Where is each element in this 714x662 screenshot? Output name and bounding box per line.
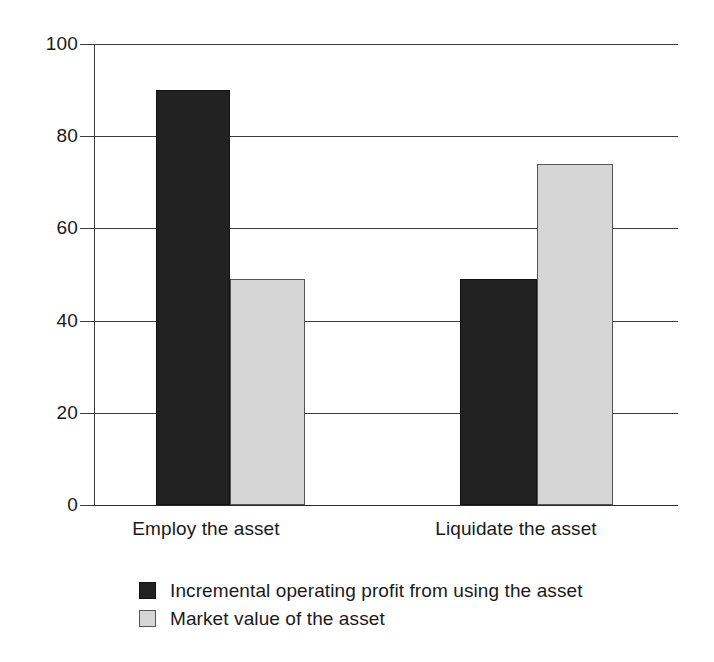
y-tick-label-80: 80 <box>26 126 78 145</box>
legend-item-incremental-operating-profit: Incremental operating profit from using … <box>139 578 583 602</box>
legend-swatch-dark-icon <box>139 582 156 599</box>
bar-employ-market-value <box>230 279 305 505</box>
legend-swatch-light-icon <box>139 610 156 627</box>
bar-employ-incremental-operating-profit <box>156 90 230 505</box>
legend: Incremental operating profit from using … <box>139 578 583 634</box>
y-tick-mark-40 <box>80 321 94 322</box>
x-category-label-employ: Employ the asset <box>110 518 302 540</box>
legend-item-market-value: Market value of the asset <box>139 606 583 630</box>
y-axis-line <box>94 44 95 506</box>
y-tick-label-40: 40 <box>26 311 78 330</box>
x-category-label-liquidate: Liquidate the asset <box>414 518 618 540</box>
bar-liquidate-market-value <box>537 164 613 505</box>
y-axis-tick-labels: 100 80 60 40 20 0 <box>14 0 78 662</box>
legend-label-incremental-operating-profit: Incremental operating profit from using … <box>170 580 583 601</box>
y-tick-mark-100 <box>80 44 94 45</box>
gridline-0-baseline <box>94 505 678 506</box>
bar-chart: 100 80 60 40 20 0 Employ the asset Liqui… <box>0 0 714 662</box>
y-tick-mark-80 <box>80 136 94 137</box>
y-tick-mark-0 <box>80 505 94 506</box>
y-tick-label-0: 0 <box>26 495 78 514</box>
gridline-100 <box>94 44 678 45</box>
legend-label-market-value: Market value of the asset <box>170 608 385 629</box>
bar-liquidate-incremental-operating-profit <box>460 279 537 505</box>
y-tick-label-100: 100 <box>26 34 78 53</box>
y-tick-label-60: 60 <box>26 218 78 237</box>
plot-area <box>94 44 678 505</box>
y-tick-label-20: 20 <box>26 403 78 422</box>
y-tick-mark-20 <box>80 413 94 414</box>
y-tick-mark-60 <box>80 228 94 229</box>
